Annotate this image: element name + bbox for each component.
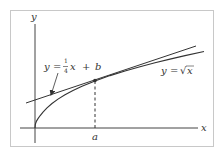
curve-label: y = √ x	[160, 65, 194, 76]
svg-text:y: y	[43, 61, 50, 72]
svg-text:1: 1	[64, 57, 68, 64]
svg-text:x: x	[70, 61, 76, 72]
figure-frame	[11, 11, 214, 147]
svg-text:4: 4	[64, 67, 68, 74]
tangent-label: y = 1 4 x + b	[43, 57, 101, 74]
svg-text:=: =	[170, 65, 178, 76]
svg-text:=: =	[53, 61, 61, 72]
x-axis-label: x	[201, 122, 207, 133]
svg-text:+: +	[82, 61, 90, 72]
a-tick-label: a	[92, 131, 98, 142]
svg-text:x: x	[187, 65, 193, 76]
svg-text:y: y	[160, 65, 167, 76]
tangent-label-arrow	[51, 73, 58, 95]
y-axis-label: y	[30, 11, 37, 22]
svg-text:b: b	[95, 61, 101, 72]
tangent-diagram-svg: y x a y = 1 4 x + b y = √ x	[0, 0, 218, 158]
diagram: y x a y = 1 4 x + b y = √ x	[0, 0, 218, 158]
svg-text:√: √	[180, 65, 187, 76]
